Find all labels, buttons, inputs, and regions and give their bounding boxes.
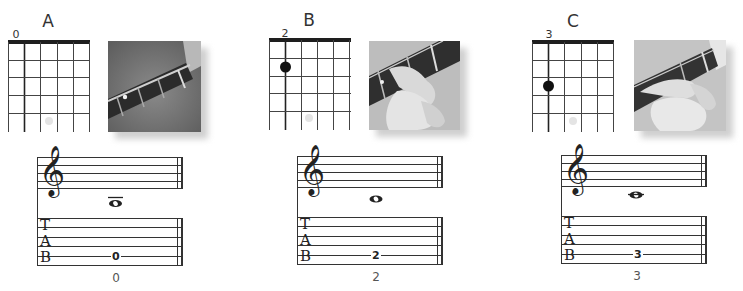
fretboard-photo <box>108 41 201 132</box>
example-title: C <box>558 11 588 31</box>
tab-fret-number: 0 <box>111 252 121 262</box>
example-caption: 3 <box>627 269 647 283</box>
tab-letter-b: B <box>300 250 311 262</box>
fretboard-finger-fret3-photo-icon <box>634 40 726 131</box>
finger-dot-icon <box>280 62 291 73</box>
notation-and-tab-staff: 𝄞 T A B 3 <box>561 151 709 269</box>
fret-marker-icon <box>569 117 577 125</box>
tab-letter-a: A <box>300 234 311 246</box>
finger-dot-icon <box>543 81 554 92</box>
fretboard-diagram <box>269 38 353 132</box>
tab-letter-a: A <box>40 235 51 247</box>
tab-letter-b: B <box>40 251 51 263</box>
notation-and-tab-staff: 𝄞 T A B 2 <box>297 152 445 270</box>
example-caption: 0 <box>106 271 126 285</box>
example-caption: 2 <box>366 270 386 284</box>
tab-letter-t: T <box>300 218 310 230</box>
tab-letter-b: B <box>564 249 575 261</box>
tab-letter-a: A <box>564 233 575 245</box>
notation-and-tab-staff: 𝄞 T A B 0 <box>37 152 185 270</box>
tab-fret-number: 2 <box>371 251 381 261</box>
treble-clef-icon: 𝄞 <box>299 145 325 193</box>
treble-clef-icon: 𝄞 <box>563 144 589 192</box>
fret-marker-icon <box>45 117 53 125</box>
tab-letter-t: T <box>564 217 574 229</box>
tab-letter-t: T <box>40 219 50 231</box>
treble-clef-icon: 𝄞 <box>39 146 65 194</box>
example-title: B <box>294 10 324 30</box>
fretboard-photo <box>634 40 726 131</box>
fretboard-finger-fret2-photo-icon <box>369 41 460 130</box>
fretboard-diagram <box>532 40 616 134</box>
fretboard-open-string-photo-icon <box>108 41 201 132</box>
tab-fret-number: 3 <box>633 250 643 260</box>
fretboard-photo <box>369 41 460 130</box>
example-title: A <box>33 11 63 31</box>
fretboard-diagram <box>8 40 92 134</box>
fret-marker-icon <box>305 114 313 122</box>
